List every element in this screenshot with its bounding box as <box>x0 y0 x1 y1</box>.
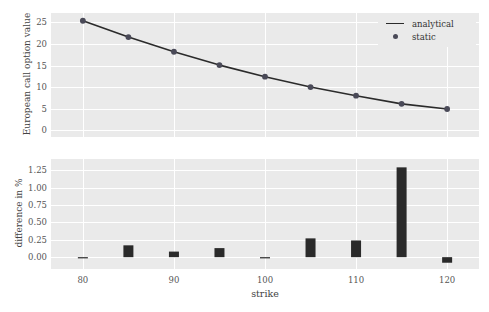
data-point-marker <box>171 49 177 55</box>
bar <box>397 167 407 257</box>
x-tick-label: 100 <box>257 275 273 285</box>
data-point-marker <box>80 18 86 24</box>
legend-label-static: static <box>408 32 436 42</box>
difference-bar-series <box>78 167 452 262</box>
y-tick-label: 20 <box>36 39 47 49</box>
data-point-marker <box>353 93 359 99</box>
data-point-marker <box>126 34 132 40</box>
y-tick-label: 25 <box>36 17 47 27</box>
y-tick-label: 1.00 <box>28 183 47 193</box>
x-tick-label: 110 <box>348 275 364 285</box>
bar <box>169 252 179 258</box>
y-tick-label: 5 <box>42 104 47 114</box>
line-key-icon <box>382 23 408 25</box>
bottom-chart-y-axis-label: difference in % <box>14 158 24 268</box>
data-point-marker <box>308 84 314 90</box>
y-tick-label: 0.50 <box>28 217 47 227</box>
x-tick-label: 80 <box>77 275 88 285</box>
data-point-marker <box>444 106 450 112</box>
bottom-chart-series-layer <box>51 159 479 269</box>
y-tick-label: 0.75 <box>28 200 47 210</box>
bottom-chart-x-axis-label: strike <box>51 288 479 299</box>
bar <box>306 238 316 257</box>
figure-canvas: European call option value 0510152025 an… <box>0 0 489 312</box>
y-tick-label: 10 <box>36 82 47 92</box>
y-tick-label: 0 <box>42 125 47 135</box>
top-chart-y-axis-label: European call option value <box>22 12 32 136</box>
bar <box>442 257 452 263</box>
x-tick-label: 90 <box>169 275 180 285</box>
legend-entry-static: static <box>382 30 472 43</box>
legend-entry-analytical: analytical <box>382 17 472 30</box>
y-tick-label: 0.25 <box>28 235 47 245</box>
data-point-marker <box>262 74 268 80</box>
bar <box>123 245 133 257</box>
x-tick-label: 120 <box>439 275 455 285</box>
bar <box>260 257 270 258</box>
dot-key-icon <box>382 34 408 39</box>
data-point-marker <box>217 62 223 68</box>
bar <box>78 257 88 258</box>
data-point-marker <box>399 101 405 107</box>
y-tick-label: 15 <box>36 61 47 71</box>
bottom-chart-plot-area <box>51 159 479 269</box>
chart-legend: analytical static <box>378 13 476 47</box>
y-tick-label: 1.25 <box>28 165 47 175</box>
bottom-chart-y-tick-labels: 0.000.250.500.751.001.25 <box>0 0 47 1</box>
y-tick-label: 0.00 <box>28 252 47 262</box>
legend-label-analytical: analytical <box>408 19 454 29</box>
bar <box>351 240 361 257</box>
bar <box>214 248 224 257</box>
